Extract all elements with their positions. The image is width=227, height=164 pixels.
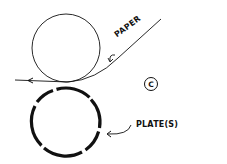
plate-segment xyxy=(44,148,82,156)
plate-segment xyxy=(86,132,99,151)
plate-segment xyxy=(31,106,41,146)
printing-diagram xyxy=(0,0,227,164)
panel-c-badge: C xyxy=(144,77,158,91)
plate-cylinder xyxy=(31,88,100,156)
plate-segment xyxy=(91,100,100,129)
plate-segment xyxy=(57,88,90,97)
panel-c-letter: C xyxy=(148,80,154,89)
plates-label: PLATE(S) xyxy=(136,120,178,129)
paper-web-line xyxy=(15,19,161,82)
plate-pointer-line xyxy=(108,125,131,134)
impression-cylinder xyxy=(32,14,100,82)
rotation-arrowhead-icon xyxy=(108,58,113,62)
plate-segment xyxy=(37,91,53,103)
